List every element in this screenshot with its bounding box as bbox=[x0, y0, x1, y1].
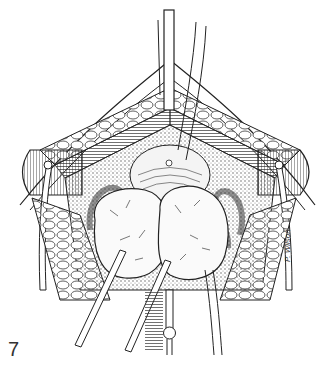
figure-number: 7 bbox=[8, 338, 19, 361]
surgical-illustration: 7 P. Wilson bbox=[0, 0, 328, 368]
illustration-canvas bbox=[0, 0, 328, 368]
artist-signature: P. Wilson bbox=[283, 229, 292, 262]
